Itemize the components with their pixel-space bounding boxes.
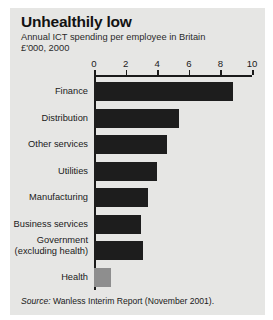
category-label: Other services <box>10 139 88 150</box>
plot-area: 0246810 FinanceDistributionOther service… <box>94 58 254 308</box>
x-axis-line <box>94 75 252 77</box>
category-label: Finance <box>10 86 88 97</box>
x-tick <box>126 70 128 75</box>
category-label: Utilities <box>10 166 88 177</box>
x-tick-label: 8 <box>218 58 223 69</box>
bar: Finance <box>94 82 233 101</box>
x-tick-label: 0 <box>91 58 96 69</box>
bar: Business services <box>94 215 141 234</box>
bar: Other services <box>94 135 167 154</box>
x-tick <box>220 70 222 75</box>
x-tick-label: 2 <box>123 58 128 69</box>
bar: Manufacturing <box>94 188 148 207</box>
x-tick <box>94 70 96 75</box>
category-label: Health <box>10 272 88 283</box>
category-label: Business services <box>10 219 88 230</box>
x-tick-label: 4 <box>155 58 160 69</box>
bar: Health <box>94 268 111 287</box>
bar: Distribution <box>94 109 179 128</box>
x-tick <box>157 70 159 75</box>
source-label: Source: <box>21 296 51 306</box>
x-tick-label: 10 <box>247 58 258 69</box>
category-label: Government (excluding health) <box>10 235 88 256</box>
category-label: Manufacturing <box>10 192 88 203</box>
x-tick-label: 6 <box>186 58 191 69</box>
bar: Utilities <box>94 162 157 181</box>
chart-subtitle: Annual ICT spending per employee in Brit… <box>21 32 205 54</box>
bar: Government (excluding health) <box>94 241 143 260</box>
chart-figure: Unhealthily low Annual ICT spending per … <box>10 8 265 315</box>
category-label: Distribution <box>10 113 88 124</box>
source-note: Source: Wanless Interim Report (November… <box>21 296 214 306</box>
x-tick <box>252 70 254 75</box>
x-tick <box>189 70 191 75</box>
source-text: Wanless Interim Report (November 2001). <box>51 296 215 306</box>
chart-title: Unhealthily low <box>21 13 132 31</box>
